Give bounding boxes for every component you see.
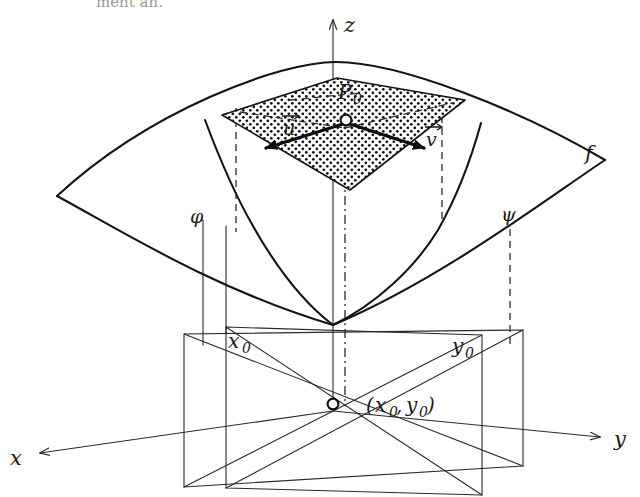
v-vector-label: v [425,124,442,150]
base-point-x-symbol: x [375,393,386,417]
base-point-close-paren: ) [426,393,435,417]
base-point-marker [328,399,339,410]
base-point-comma: , [396,393,402,417]
psi-curve-upper [438,123,481,230]
p0-label-subscript: 0 [353,91,362,107]
base-point-label: ( x 0 , y 0 ) [366,393,435,420]
psi-curve-lower [333,230,438,325]
y-axis-label: y [613,427,627,451]
phi-curve-upper [205,120,253,226]
x0-label-symbol: x [228,329,239,353]
z-axis-label: z [343,13,356,37]
tangent-plane-figure: ment an. [0,0,640,497]
x0-label-subscript: 0 [242,340,251,356]
p0-label-symbol: P [337,80,352,104]
x-axis-label: x [10,446,22,470]
u-vector-label-glyph: u [283,117,295,139]
phi-curve-lower [253,226,333,325]
y0-label-symbol: y [451,334,464,358]
y0-label: y 0 [451,334,474,361]
x-axis [40,411,333,453]
base-line-b [226,327,482,495]
psi-curve-label: ψ [501,203,517,225]
base-point-open-paren: ( [366,393,375,417]
figure-canvas: z x y f φ ψ P 0 u v x 0 [0,0,640,497]
v-vector-label-glyph: v [426,128,437,150]
p0-point-marker [341,115,352,126]
base-point-y-symbol: y [405,393,418,417]
phi-curve-label: φ [190,205,204,227]
y0-label-subscript: 0 [465,345,474,361]
